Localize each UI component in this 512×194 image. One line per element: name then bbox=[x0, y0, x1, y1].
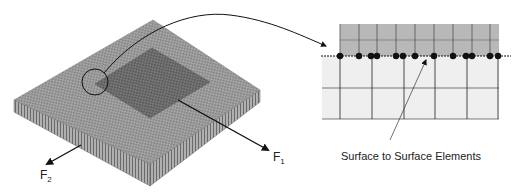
force-f1-subscript: 1 bbox=[280, 157, 284, 166]
force-f2-label: F2 bbox=[40, 168, 52, 184]
detail-plate-layer bbox=[322, 56, 499, 119]
force-f2-arrow bbox=[47, 145, 81, 164]
detail-caption: Surface to Surface Elements bbox=[341, 150, 481, 162]
force-f2-subscript: 2 bbox=[47, 175, 51, 184]
diagram-canvas bbox=[0, 0, 512, 194]
cross-section-mesh-detail bbox=[321, 24, 511, 140]
force-f1-label: F1 bbox=[273, 150, 285, 166]
